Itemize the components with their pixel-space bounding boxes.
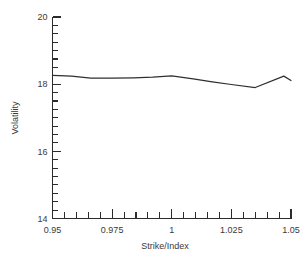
x-tick-label: 0.975: [101, 225, 124, 235]
x-axis-title: Strike/Index: [141, 241, 189, 251]
y-tick-label: 16: [37, 147, 47, 157]
y-tick-label: 14: [37, 214, 47, 224]
data-line-0: [53, 75, 292, 87]
y-tick-label: 20: [37, 12, 47, 22]
y-axis-tick-labels: 14161820: [37, 12, 47, 224]
chart-canvas: 14161820 Volatility 0.950.97511.0251.05 …: [0, 0, 302, 262]
data-series-group: [53, 75, 292, 87]
y-axis-group: 14161820 Volatility: [10, 12, 61, 224]
y-axis-minor-ticks: [53, 25, 59, 210]
x-tick-label: 1: [169, 225, 174, 235]
y-tick-label: 18: [37, 79, 47, 89]
x-axis-group: 0.950.97511.0251.05 Strike/Index: [44, 209, 300, 252]
x-tick-label: 1.025: [220, 225, 243, 235]
y-axis-title: Volatility: [10, 101, 20, 135]
x-tick-label: 1.05: [282, 225, 300, 235]
volatility-smile-chart: 14161820 Volatility 0.950.97511.0251.05 …: [0, 0, 302, 262]
x-tick-label: 0.95: [44, 225, 62, 235]
x-axis-tick-labels: 0.950.97511.0251.05: [44, 225, 300, 235]
